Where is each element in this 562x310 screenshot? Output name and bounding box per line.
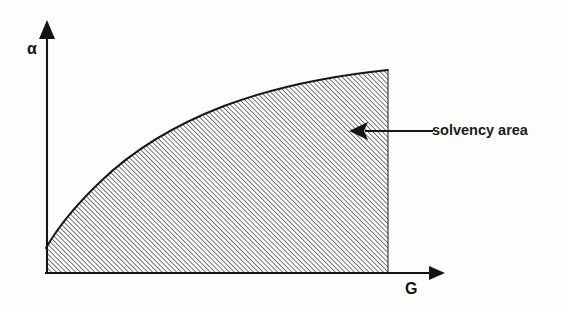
figure-canvas [0, 0, 562, 310]
arrow-right-icon [429, 266, 445, 280]
x-axis-label: G [405, 281, 417, 297]
solvency-area-figure: α G solvency area [0, 0, 562, 310]
arrow-up-icon [39, 20, 55, 39]
solvency-area-region [46, 70, 388, 273]
solvency-area-annotation-label: solvency area [432, 123, 528, 138]
y-axis-label: α [27, 41, 37, 57]
